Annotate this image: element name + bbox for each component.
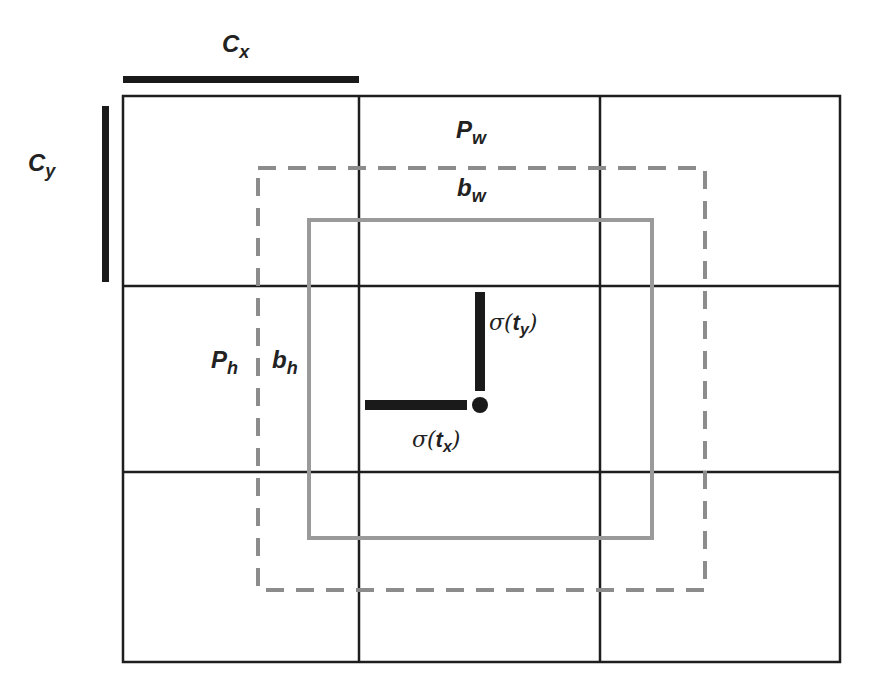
pw-label: Pw <box>456 116 487 148</box>
sigma-tx-label: σ(tx) <box>412 427 460 455</box>
cx-label: Cx <box>222 30 250 62</box>
yolo-bbox-diagram: Cx Cy Pw bw Ph bh σ(ty) σ(tx) <box>0 0 885 695</box>
sigma-tx-bar <box>365 400 467 410</box>
bh-label: bh <box>272 346 298 378</box>
ph-label: Ph <box>211 346 238 378</box>
sigma-ty-label: σ(ty) <box>489 310 537 338</box>
bw-label: bw <box>457 174 487 206</box>
sigma-ty-bar <box>475 292 485 391</box>
cx-offset-bar <box>123 76 359 83</box>
cy-offset-bar <box>102 106 109 282</box>
cy-label: Cy <box>28 149 56 181</box>
box-center-dot <box>472 397 488 413</box>
